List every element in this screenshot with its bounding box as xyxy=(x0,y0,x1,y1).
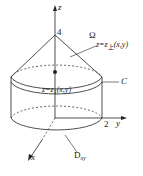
radius-value-label: 2 xyxy=(104,119,109,129)
x-axis-hidden xyxy=(42,118,55,140)
cone-right-edge xyxy=(55,35,102,77)
upper-surface-label: z=z上(x,y) xyxy=(96,40,128,51)
z-axis-label: z xyxy=(58,2,62,12)
cone-left-edge xyxy=(11,35,55,77)
apex-value-label: 4 xyxy=(57,27,62,37)
x-axis-label: x xyxy=(31,152,35,162)
omega-label: Ω xyxy=(89,30,96,40)
domain-label: Dxy xyxy=(74,150,86,161)
bottom-ellipse-back xyxy=(11,106,102,118)
lower-surface-label: z=z1(x,y) xyxy=(42,85,71,95)
diagram-canvas xyxy=(0,0,143,176)
z-axis-arrow-icon xyxy=(53,5,57,11)
y-axis-label: y xyxy=(116,118,120,128)
center-point xyxy=(53,70,57,74)
curve-label: C xyxy=(121,76,127,86)
y-axis-arrow-icon xyxy=(121,116,127,120)
bottom-ellipse-front xyxy=(11,118,102,130)
